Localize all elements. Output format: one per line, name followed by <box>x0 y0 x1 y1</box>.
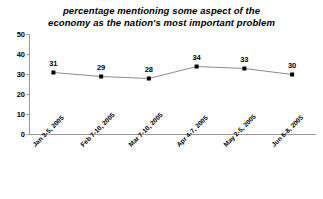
chart-container: percentage mentioning some aspect of the… <box>0 0 323 199</box>
y-axis-tick-label: 40 <box>3 51 25 59</box>
y-axis-tick-label: 0 <box>3 131 25 139</box>
data-point-marker <box>147 77 151 81</box>
y-axis-tick-label: 20 <box>3 91 25 99</box>
data-point-label: 31 <box>49 60 57 68</box>
plot-area <box>0 0 323 199</box>
data-series-line <box>53 67 292 79</box>
y-axis-tick-label: 50 <box>3 31 25 39</box>
data-point-marker <box>290 73 294 77</box>
data-point-label: 28 <box>145 66 153 74</box>
data-point-marker <box>195 65 199 69</box>
y-axis-tick-label: 10 <box>3 111 25 119</box>
y-axis-tick-label: 30 <box>3 71 25 79</box>
data-point-marker <box>51 71 55 75</box>
data-point-label: 33 <box>240 56 248 64</box>
y-axis-labels: 01020304050 <box>0 0 25 199</box>
data-point-marker <box>99 75 103 79</box>
data-point-label: 30 <box>288 62 296 70</box>
data-point-marker <box>242 67 246 71</box>
data-point-label: 29 <box>97 64 105 72</box>
data-point-label: 34 <box>192 54 200 62</box>
